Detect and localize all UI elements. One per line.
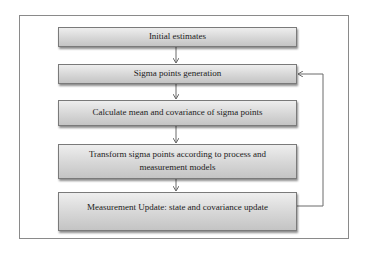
step-sigma-points-generation: Sigma points generation (58, 64, 297, 84)
feedback-loop-arrow (297, 74, 323, 206)
step-measurement-update: Measurement Update: state and covariance… (58, 192, 297, 231)
step-label: Measurement Update: state and covariance… (87, 201, 268, 214)
step-mean-covariance: Calculate mean and covariance of sigma p… (58, 100, 297, 126)
step-initial-estimates: Initial estimates (58, 27, 297, 47)
step-label: Initial estimates (149, 30, 206, 43)
step-transform-sigma-points: Transform sigma points according to proc… (58, 144, 297, 179)
step-label: Calculate mean and covariance of sigma p… (93, 106, 263, 119)
step-label: Sigma points generation (134, 67, 222, 80)
step-label: Transform sigma points according to proc… (73, 148, 282, 174)
